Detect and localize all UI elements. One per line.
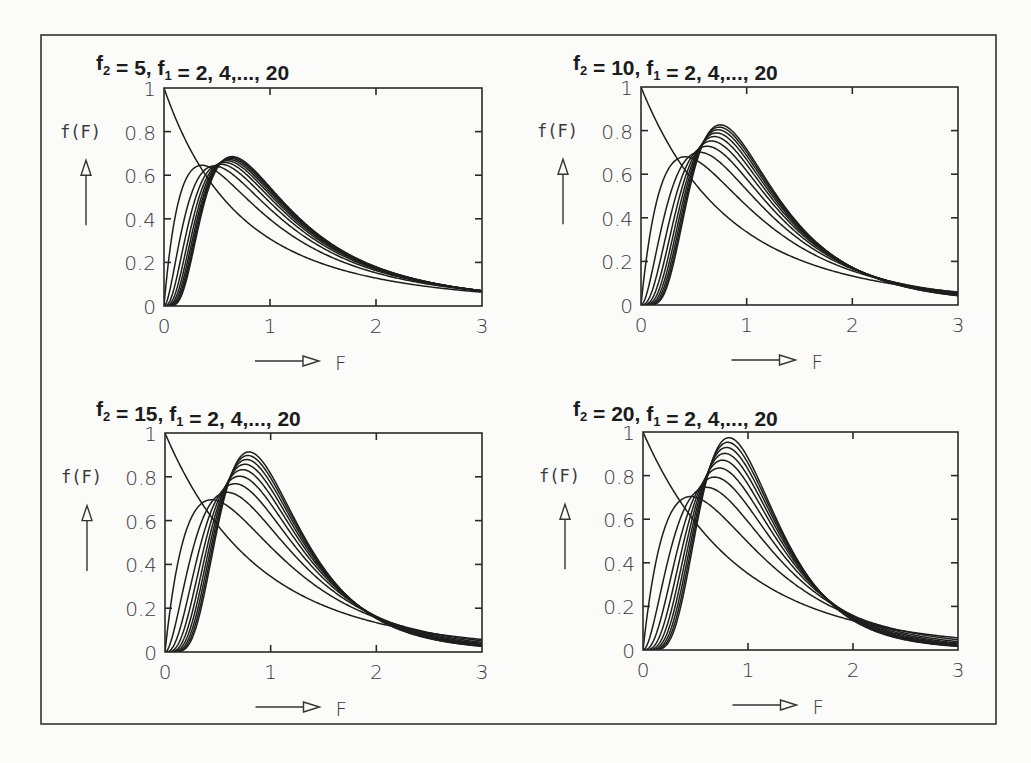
curve-f1-20: [165, 452, 482, 652]
y-tick-label: 0.4: [601, 207, 633, 231]
x-tick-label: 0: [159, 660, 172, 684]
panel-title: f2 = 5, f1 = 2, 4,..., 20: [96, 51, 289, 84]
y-tick-label: 0.8: [125, 466, 157, 490]
right-arrow-icon: [732, 355, 796, 365]
y-tick-label: 0.8: [603, 465, 635, 489]
y-tick-label: 0.2: [124, 251, 156, 275]
x-tick-label: 1: [740, 313, 753, 337]
y-axis-label: f(F): [539, 466, 580, 486]
y-axis-label: f(F): [61, 467, 102, 487]
y-axis-label: f(F): [60, 122, 101, 142]
up-arrow-icon: [558, 159, 568, 224]
y-axis-label: f(F): [537, 121, 578, 141]
x-tick-label: 3: [952, 658, 965, 682]
y-tick-label: 0: [144, 641, 157, 665]
curve-f1-6: [164, 166, 482, 306]
curve-f1-14: [641, 133, 958, 305]
curve-f1-2: [164, 88, 482, 292]
y-tick-label: 0: [620, 294, 633, 318]
panel-3: f2 = 15, f1 = 2, 4,..., 2000.20.40.60.81…: [61, 397, 488, 721]
right-arrow-icon: [256, 702, 320, 712]
y-tick-label: 0.2: [125, 597, 157, 621]
y-tick-label: 0.2: [601, 250, 633, 274]
y-tick-label: 0.6: [603, 508, 635, 532]
y-tick-label: 0.8: [124, 121, 156, 145]
right-arrow-icon: [733, 700, 797, 710]
x-axis-label: F: [812, 350, 824, 374]
panel-2: f2 = 10, f1 = 2, 4,..., 2000.20.40.60.81…: [537, 51, 964, 374]
plot-area: [164, 88, 482, 306]
x-tick-label: 3: [476, 660, 489, 684]
curve-f1-16: [643, 447, 958, 650]
curve-f1-20: [164, 157, 482, 306]
x-tick-label: 0: [158, 314, 171, 338]
y-tick-label: 1: [143, 77, 156, 101]
curve-f1-12: [165, 470, 482, 652]
y-tick-label: 1: [620, 76, 633, 100]
y-tick-label: 0.6: [601, 163, 633, 187]
panel-title: f2 = 15, f1 = 2, 4,..., 20: [96, 397, 301, 430]
curves: [641, 87, 958, 305]
x-tick-label: 1: [742, 658, 755, 682]
up-arrow-icon: [82, 506, 92, 571]
x-tick-label: 0: [637, 658, 650, 682]
curve-f1-14: [165, 464, 482, 652]
x-tick-label: 0: [635, 313, 648, 337]
x-tick-label: 2: [847, 658, 860, 682]
curve-f1-18: [641, 127, 958, 305]
y-tick-label: 0.4: [603, 552, 635, 576]
y-tick-label: 0.6: [125, 510, 157, 534]
y-tick-label: 1: [144, 422, 157, 446]
panel-4: f2 = 20, f1 = 2, 4,..., 2000.20.40.60.81…: [539, 397, 964, 719]
plot-area: [643, 432, 958, 650]
x-tick-label: 2: [370, 660, 383, 684]
y-tick-label: 0.4: [124, 208, 156, 232]
curve-f1-20: [641, 125, 958, 305]
x-axis-label: F: [335, 351, 347, 375]
panel-title: f2 = 20, f1 = 2, 4,..., 20: [573, 397, 778, 430]
curve-f1-16: [641, 130, 958, 305]
up-arrow-icon: [81, 160, 91, 225]
x-tick-label: 1: [264, 660, 277, 684]
y-tick-label: 0: [143, 295, 156, 319]
x-axis-label: F: [813, 695, 825, 719]
curve-f1-10: [641, 141, 958, 305]
y-tick-label: 0.2: [603, 595, 635, 619]
x-tick-label: 2: [370, 314, 383, 338]
y-tick-label: 0.8: [601, 120, 633, 144]
panel-1: f2 = 5, f1 = 2, 4,..., 2000.20.40.60.810…: [60, 51, 488, 375]
curves: [643, 432, 958, 650]
x-tick-label: 3: [952, 313, 965, 337]
f-distribution-figure: f2 = 5, f1 = 2, 4,..., 2000.20.40.60.810…: [0, 0, 1031, 763]
x-tick-label: 1: [264, 314, 277, 338]
x-tick-label: 3: [476, 314, 489, 338]
y-tick-label: 1: [622, 421, 635, 445]
y-tick-label: 0: [622, 639, 635, 663]
curves: [164, 88, 482, 306]
y-tick-label: 0.6: [124, 164, 156, 188]
y-tick-label: 0.4: [125, 553, 157, 577]
x-axis-label: F: [336, 697, 348, 721]
curve-f1-10: [165, 476, 482, 652]
right-arrow-icon: [255, 356, 319, 366]
panel-title: f2 = 10, f1 = 2, 4,..., 20: [573, 51, 778, 84]
up-arrow-icon: [560, 504, 570, 569]
curves: [165, 433, 482, 652]
x-tick-label: 2: [846, 313, 859, 337]
